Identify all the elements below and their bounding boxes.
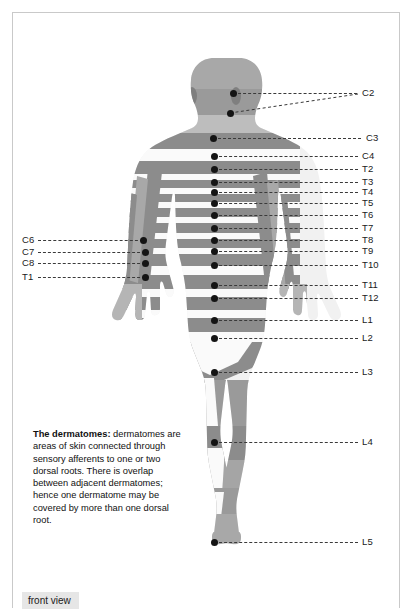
leader-line-T10 <box>214 265 358 266</box>
dermatome-label-C8: C8 <box>22 258 34 268</box>
dermatome-dot-T9 <box>211 248 218 255</box>
dermatome-dot-L4 <box>211 439 218 446</box>
figure-caption: The dermatomes: dermatomes are areas of … <box>33 428 185 526</box>
leader-line-T11 <box>214 285 358 286</box>
dermatome-label-L5: L5 <box>362 537 373 547</box>
leader-line-T9 <box>214 251 358 252</box>
dermatome-dot-T4 <box>211 189 218 196</box>
dermatome-dot-T8 <box>211 237 218 244</box>
leader-line-C3 <box>213 138 361 139</box>
leader-line-T5 <box>214 203 358 204</box>
leader-line-T4 <box>214 192 358 193</box>
dermatome-label-T5: T5 <box>362 198 373 208</box>
dermatome-label-C6: C6 <box>22 235 34 245</box>
dermatome-dot-T3 <box>211 179 218 186</box>
leader-line-T1 <box>38 277 145 278</box>
dermatome-dot-T6 <box>211 212 218 219</box>
leader-line-C7 <box>38 252 145 253</box>
caption-body: dermatomes are areas of skin connected t… <box>33 429 181 525</box>
dermatome-dot-L1 <box>211 317 218 324</box>
dermatome-dot-T2 <box>211 166 218 173</box>
dermatome-dot-C8 <box>142 260 149 267</box>
dermatome-label-L1: L1 <box>362 315 373 325</box>
dermatome-label-T6: T6 <box>362 210 373 220</box>
dermatome-dot-C7 <box>142 249 149 256</box>
dermatome-dot-L2 <box>211 335 218 342</box>
dermatome-figure-page: C2 C3 C4 T2 T3 T4 T5 T6 T7 T8 T9 T10 T11… <box>0 0 415 614</box>
leader-line-C2b <box>230 93 360 115</box>
dermatome-dot-C3 <box>210 135 217 142</box>
dermatome-dot-C6 <box>140 237 147 244</box>
dermatome-label-C4: C4 <box>362 151 374 161</box>
dermatome-dot-C2a <box>230 90 237 97</box>
leader-line-T3 <box>214 182 358 183</box>
dermatome-dot-T7 <box>211 225 218 232</box>
leader-line-T2 <box>214 169 358 170</box>
leader-line-L2 <box>214 338 358 339</box>
dermatome-label-L4: L4 <box>362 437 373 447</box>
leader-line-T8 <box>214 240 358 241</box>
leader-line-T12 <box>214 298 358 299</box>
dermatome-label-L3: L3 <box>362 367 373 377</box>
dermatome-dot-T11 <box>211 282 218 289</box>
dermatome-dot-L5 <box>211 539 218 546</box>
leader-line-T6 <box>214 215 358 216</box>
figure-area: C2 C3 C4 T2 T3 T4 T5 T6 T7 T8 T9 T10 T11… <box>0 0 415 614</box>
dermatome-label-T12: T12 <box>362 293 379 303</box>
dermatome-label-T8: T8 <box>362 235 373 245</box>
dermatome-label-T1: T1 <box>22 272 33 282</box>
dermatome-dot-T1 <box>142 274 149 281</box>
dermatome-dot-T12 <box>211 295 218 302</box>
dermatome-dot-L3 <box>211 369 218 376</box>
dermatome-dot-T5 <box>211 200 218 207</box>
leader-line-L4 <box>214 442 358 443</box>
dermatome-label-T7: T7 <box>362 223 373 233</box>
dermatome-dot-C2b <box>227 110 234 117</box>
dermatome-label-T4: T4 <box>362 187 373 197</box>
dermatome-dot-T10 <box>211 262 218 269</box>
leader-line-L3 <box>214 372 358 373</box>
dermatome-label-T11: T11 <box>362 280 378 290</box>
dermatome-label-L2: L2 <box>362 333 373 343</box>
dermatome-label-C2: C2 <box>362 88 374 98</box>
dermatome-label-C3: C3 <box>366 133 378 143</box>
dermatome-label-T2: T2 <box>362 164 373 174</box>
leader-line-C6 <box>38 240 143 241</box>
view-label: front view <box>22 592 79 609</box>
dermatome-label-T10: T10 <box>362 260 379 270</box>
dermatome-label-C7: C7 <box>22 247 34 257</box>
leader-line-L5 <box>214 542 358 543</box>
leader-line-C8 <box>38 263 145 264</box>
caption-lead: The dermatomes: <box>33 429 111 439</box>
leader-line-L1 <box>214 320 358 321</box>
dermatome-dot-C4 <box>211 153 218 160</box>
leader-line-T7 <box>214 228 358 229</box>
dermatome-label-T9: T9 <box>362 246 373 256</box>
leader-line-C4 <box>214 156 358 157</box>
